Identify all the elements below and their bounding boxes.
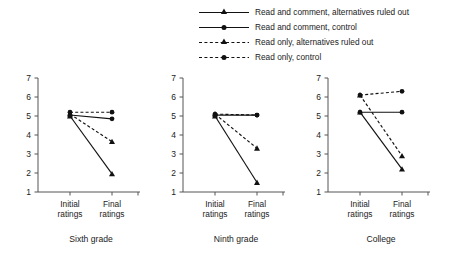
chart-legend: Read and comment, alternatives ruled out…: [198, 6, 409, 64]
legend-sample-dashed-circle-icon: [198, 51, 250, 64]
data-point-marker: [399, 153, 405, 158]
y-tick-label: 5: [316, 111, 321, 121]
x-tick-label: Final: [248, 199, 266, 209]
y-tick-label: 5: [26, 111, 31, 121]
y-tick-label: 5: [171, 111, 176, 121]
y-tick-label: 2: [171, 168, 176, 178]
x-tick-label-sub: ratings: [203, 209, 228, 219]
y-tick-label: 1: [171, 187, 176, 197]
y-tick-label: 4: [171, 130, 176, 140]
y-tick-label: 2: [26, 168, 31, 178]
y-tick-label: 4: [316, 130, 321, 140]
legend-entry: Read and comment, control: [198, 21, 409, 34]
y-tick-label: 6: [316, 92, 321, 102]
y-tick-label: 3: [171, 149, 176, 159]
panel-plot: 1234567InitialratingsFinalratingsSixth g…: [8, 72, 153, 262]
y-tick-label: 1: [26, 187, 31, 197]
legend-entry: Read and comment, alternatives ruled out: [198, 6, 409, 19]
data-point-marker: [400, 89, 405, 94]
x-tick-label-sub: ratings: [348, 209, 373, 219]
panel-title: Ninth grade: [214, 234, 259, 244]
legend-sample-solid-circle-icon: [198, 21, 250, 34]
panel-title: Sixth grade: [69, 234, 113, 244]
x-tick-label: Initial: [60, 199, 80, 209]
y-tick-label: 1: [316, 187, 321, 197]
y-tick-label: 3: [26, 149, 31, 159]
legend-entry: Read only, control: [198, 51, 409, 64]
data-point-marker: [254, 145, 260, 150]
x-tick-label-sub: ratings: [58, 209, 83, 219]
series-line: [360, 91, 402, 95]
x-tick-label-sub: ratings: [245, 209, 270, 219]
y-tick-label: 7: [316, 73, 321, 83]
legend-sample-dashed-triangle-icon: [198, 36, 250, 49]
panel-college: 1234567InitialratingsFinalratingsCollege: [298, 72, 443, 262]
series-line: [215, 116, 257, 183]
panel-plot: 1234567InitialratingsFinalratingsNinth g…: [153, 72, 298, 262]
y-tick-label: 4: [26, 130, 31, 140]
data-point-marker: [109, 139, 115, 144]
y-tick-label: 2: [316, 168, 321, 178]
x-tick-label: Final: [103, 199, 121, 209]
x-tick-label: Initial: [205, 199, 225, 209]
x-tick-label-sub: ratings: [100, 209, 125, 219]
data-point-marker: [254, 180, 260, 185]
data-point-marker: [400, 110, 405, 115]
panel-plot: 1234567InitialratingsFinalratingsCollege: [298, 72, 443, 262]
x-tick-label-sub: ratings: [390, 209, 415, 219]
series-line: [215, 114, 257, 148]
panel-sixth-grade: 1234567InitialratingsFinalratingsSixth g…: [8, 72, 153, 262]
x-tick-label: Final: [393, 199, 411, 209]
data-point-marker: [255, 113, 260, 118]
legend-label: Read only, control: [255, 51, 321, 64]
y-tick-label: 6: [171, 92, 176, 102]
series-line: [70, 116, 112, 174]
y-tick-label: 6: [26, 92, 31, 102]
panel-ninth-grade: 1234567InitialratingsFinalratingsNinth g…: [153, 72, 298, 262]
y-tick-label: 7: [171, 73, 176, 83]
panel-title: College: [366, 234, 395, 244]
series-line: [360, 95, 402, 156]
data-point-marker: [110, 116, 115, 121]
y-tick-label: 7: [26, 73, 31, 83]
legend-label: Read only, alternatives ruled out: [255, 36, 373, 49]
x-tick-label: Initial: [350, 199, 370, 209]
legend-entry: Read only, alternatives ruled out: [198, 36, 409, 49]
legend-label: Read and comment, control: [255, 21, 357, 34]
y-tick-label: 3: [316, 149, 321, 159]
legend-label: Read and comment, alternatives ruled out: [255, 6, 409, 19]
series-line: [360, 112, 402, 169]
figure-root: Read and comment, alternatives ruled out…: [0, 0, 451, 269]
legend-sample-solid-triangle-icon: [198, 6, 250, 19]
data-point-marker: [110, 110, 115, 115]
